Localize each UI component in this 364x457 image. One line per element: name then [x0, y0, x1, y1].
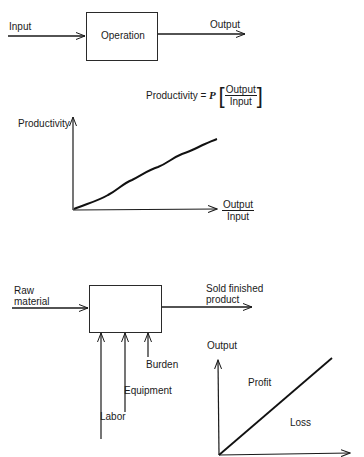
formula-symbol: P — [209, 89, 216, 101]
operation-label: Operation — [101, 30, 145, 41]
burden-label: Burden — [146, 359, 178, 370]
process-box — [89, 285, 162, 333]
chart1-y-label: Productivity — [18, 118, 70, 129]
labor-label: Labor — [100, 411, 126, 422]
formula-lhs: Productivity = — [146, 90, 206, 101]
formula-denominator: Input — [225, 96, 257, 107]
sold-product-label-2: product — [206, 294, 239, 305]
formula-numerator: Output — [225, 84, 257, 96]
chart1-curve — [74, 139, 217, 209]
chart1-x-axis — [73, 209, 217, 210]
chart1-x-label: Output Input — [222, 199, 254, 222]
productivity-formula: Productivity = P [ Output Input ] — [146, 84, 263, 107]
chart1-x-numerator: Output — [222, 199, 254, 211]
right-bracket-icon: ] — [257, 83, 263, 108]
chart1-x-denominator: Input — [222, 211, 254, 222]
profit-label: Profit — [248, 377, 271, 388]
chart2-y-axis — [218, 360, 219, 455]
chart2-x-axis — [219, 453, 350, 455]
input-label: Input — [9, 21, 31, 32]
loss-label: Loss — [290, 417, 311, 428]
raw-material-label-1: Raw — [14, 285, 34, 296]
chart2-break-even-line — [219, 358, 332, 455]
sold-product-label-1: Sold finished — [206, 283, 263, 294]
output-label: Output — [210, 19, 240, 30]
chart2-y-label: Output — [207, 340, 237, 351]
equipment-label: Equipment — [124, 385, 172, 396]
diagram-lines — [0, 0, 364, 457]
raw-material-label-2: material — [14, 296, 50, 307]
